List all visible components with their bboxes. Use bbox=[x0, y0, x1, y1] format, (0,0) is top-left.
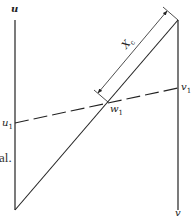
diagonal-line bbox=[15, 20, 178, 210]
edge-text-fragment: al. bbox=[0, 151, 12, 164]
w1-label-sub: 1 bbox=[119, 109, 123, 117]
dimension-line bbox=[98, 11, 167, 93]
v1-label-sub: 1 bbox=[187, 87, 191, 95]
u1-label-sub: 1 bbox=[8, 123, 12, 131]
u1-label: u1 bbox=[2, 118, 13, 131]
w1-label-base: w bbox=[110, 103, 119, 114]
dimension-extension-bottom bbox=[94, 90, 108, 102]
u-axis-label: u bbox=[11, 4, 18, 14]
w1-label: w1 bbox=[110, 104, 123, 117]
v-axis-label: v bbox=[175, 208, 181, 218]
v1-label: v1 bbox=[181, 82, 191, 95]
dashed-line-u1-v1 bbox=[15, 88, 178, 123]
diagram-canvas bbox=[0, 0, 191, 220]
